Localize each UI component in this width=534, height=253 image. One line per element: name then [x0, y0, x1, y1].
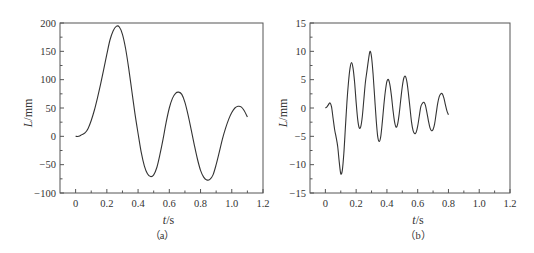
plot-frame — [60, 23, 263, 193]
x-axis-title: t/s — [163, 213, 175, 227]
y-tick-label: 0 — [301, 103, 306, 114]
y-axis-title: L/mm — [276, 98, 290, 128]
series-line — [76, 26, 248, 180]
x-tick-label: 0.6 — [411, 198, 424, 209]
y-tick-label: 10 — [296, 46, 307, 57]
y-axis-unit: /mm — [276, 98, 290, 121]
x-tick-label: 0.2 — [350, 198, 363, 209]
y-tick-label: 15 — [296, 18, 307, 29]
y-axis-unit: /mm — [21, 98, 35, 121]
y-tick-label: 150 — [40, 46, 56, 57]
x-tick-label: 0 — [73, 198, 78, 209]
subfigure-caption: （b） — [405, 230, 430, 241]
chart-a: −100−5005010015020000.20.40.60.81.01.2t/… — [21, 18, 270, 242]
y-tick-label: 5 — [301, 74, 306, 85]
y-tick-label: 100 — [40, 74, 56, 85]
x-tick-label: 0.8 — [194, 198, 207, 209]
x-axis-title: t/s — [412, 213, 424, 227]
x-tick-label: 0.6 — [163, 198, 176, 209]
x-tick-label: 1.2 — [503, 198, 516, 209]
x-tick-label: 1.2 — [256, 198, 269, 209]
chart-b: −15−10−505101500.20.40.60.81.01.2t/sL/mm… — [276, 18, 517, 242]
figure: −100−5005010015020000.20.40.60.81.01.2t/… — [0, 0, 534, 253]
y-tick-label: −50 — [40, 159, 56, 170]
y-tick-label: 200 — [40, 18, 56, 29]
x-tick-label: 0 — [323, 198, 328, 209]
y-tick-label: 0 — [51, 131, 56, 142]
x-tick-label: 0.8 — [442, 198, 455, 209]
y-tick-label: −5 — [295, 131, 306, 142]
y-axis-title: L/mm — [21, 98, 35, 128]
subfigure-caption: （a） — [150, 230, 175, 241]
x-tick-label: 0.2 — [100, 198, 113, 209]
x-tick-label: 0.4 — [132, 198, 146, 209]
x-tick-label: 1.0 — [473, 198, 486, 209]
y-tick-label: −100 — [34, 188, 56, 199]
y-tick-label: 50 — [46, 103, 57, 114]
y-tick-label: −10 — [290, 159, 306, 170]
x-axis-unit: /s — [166, 213, 174, 227]
x-tick-label: 1.0 — [225, 198, 238, 209]
x-tick-label: 0.4 — [380, 198, 394, 209]
series-line — [325, 51, 448, 174]
x-axis-unit: /s — [416, 213, 424, 227]
y-tick-label: −15 — [290, 188, 306, 199]
